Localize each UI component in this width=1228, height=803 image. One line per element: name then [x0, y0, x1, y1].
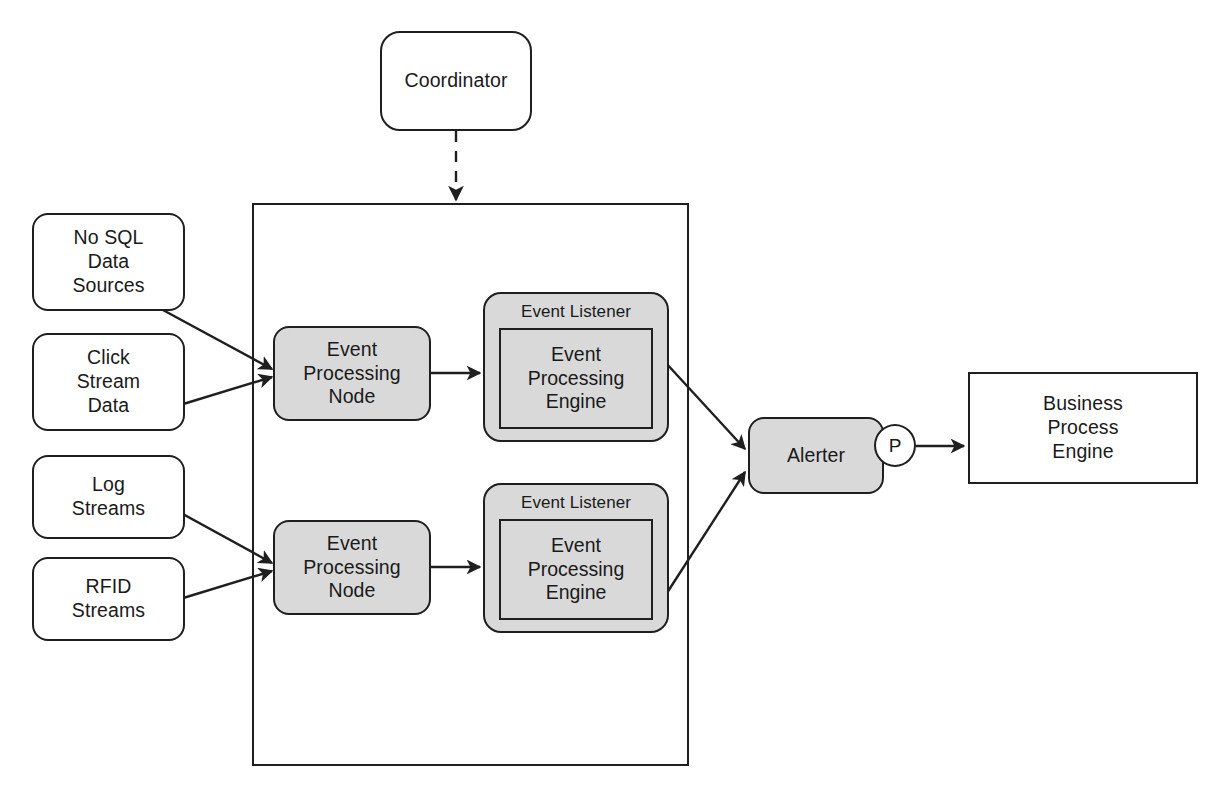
alerter-label: Alerter	[787, 444, 845, 468]
event-processing-node-lower[interactable]: Event Processing Node	[273, 520, 431, 615]
business-process-engine-node[interactable]: Business Process Engine	[968, 372, 1198, 484]
alerter-port-p-label: P	[889, 435, 902, 457]
source-label: Log Streams	[72, 473, 145, 521]
event-listener-lower[interactable]: Event Listener Event Processing Engine	[483, 483, 669, 633]
source-box-rfid-streams[interactable]: RFID Streams	[32, 557, 185, 641]
event-processing-node-label: Event Processing Node	[303, 532, 400, 603]
event-listener-title: Event Listener	[485, 302, 667, 322]
event-processing-engine-lower[interactable]: Event Processing Engine	[499, 519, 653, 620]
event-listener-upper[interactable]: Event Listener Event Processing Engine	[483, 292, 669, 442]
event-processing-engine-label: Event Processing Engine	[528, 534, 624, 605]
coordinator-label: Coordinator	[405, 69, 508, 93]
architecture-diagram: Coordinator No SQL Data Sources Click St…	[0, 0, 1228, 803]
source-label: RFID Streams	[72, 575, 145, 623]
source-label: Click Stream Data	[77, 346, 140, 417]
business-process-engine-label: Business Process Engine	[1043, 392, 1123, 463]
source-box-click-stream-data[interactable]: Click Stream Data	[32, 333, 185, 431]
alerter-node[interactable]: Alerter	[748, 417, 884, 494]
event-processing-node-upper[interactable]: Event Processing Node	[273, 326, 431, 421]
source-label: No SQL Data Sources	[72, 226, 144, 297]
event-processing-node-label: Event Processing Node	[303, 338, 400, 409]
source-box-nosql-data-sources[interactable]: No SQL Data Sources	[32, 213, 185, 311]
event-processing-engine-label: Event Processing Engine	[528, 343, 624, 414]
coordinator-node[interactable]: Coordinator	[380, 31, 532, 131]
source-box-log-streams[interactable]: Log Streams	[32, 455, 185, 539]
event-listener-title: Event Listener	[485, 493, 667, 513]
event-processing-engine-upper[interactable]: Event Processing Engine	[499, 328, 653, 429]
alerter-port-p[interactable]: P	[874, 424, 916, 467]
